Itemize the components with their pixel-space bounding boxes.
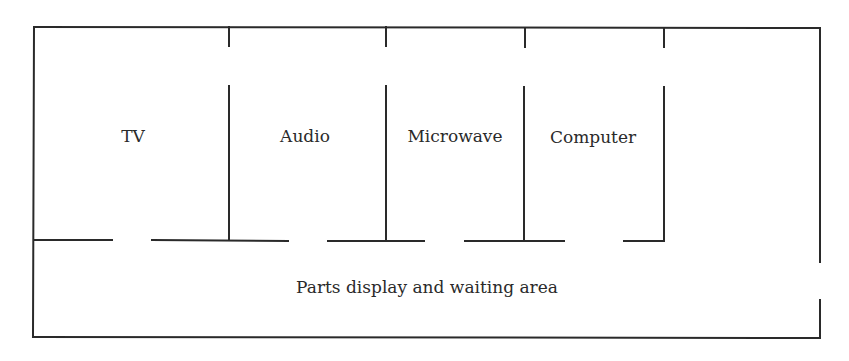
wall-left <box>33 27 34 337</box>
room-label-audio: Audio <box>280 128 330 145</box>
room-label-tv: TV <box>121 128 145 145</box>
wall-top <box>34 27 820 28</box>
common-area-label: Parts display and waiting area <box>296 279 558 296</box>
corridor-wall-segment <box>152 240 288 241</box>
wall-bottom <box>33 337 820 338</box>
room-label-microwave: Microwave <box>407 128 502 145</box>
room-label-computer: Computer <box>550 129 636 146</box>
floor-plan <box>0 0 849 361</box>
